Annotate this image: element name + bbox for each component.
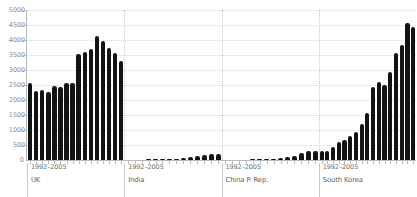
bar-slot — [180, 10, 187, 160]
bar — [371, 87, 375, 160]
y-tick-mark — [23, 55, 26, 56]
strip-panel-name: South Korea — [323, 176, 416, 185]
bar — [394, 53, 398, 160]
bar-slot — [222, 10, 229, 160]
bar-slot — [138, 10, 145, 160]
bar — [382, 85, 386, 160]
y-tick-mark — [23, 70, 26, 71]
bar — [320, 151, 324, 160]
bar — [34, 91, 38, 160]
bar — [89, 49, 93, 160]
bar — [119, 61, 123, 160]
panel-india — [124, 10, 221, 160]
bar-slot — [235, 10, 242, 160]
bar-slot — [173, 10, 180, 160]
bar — [342, 140, 346, 160]
strip-x-range-label: 1992–2005 — [128, 163, 221, 172]
bar — [400, 45, 404, 160]
bar — [313, 151, 318, 160]
bar — [405, 23, 409, 160]
bar — [299, 153, 304, 160]
strip-x-range-label: 1992–2005 — [226, 163, 319, 172]
bar — [107, 48, 111, 160]
bar-slot — [159, 10, 166, 160]
bar — [52, 86, 56, 160]
y-tick-mark — [23, 10, 26, 11]
y-tick-mark — [23, 100, 26, 101]
bar — [40, 90, 44, 160]
bar-slot — [305, 10, 312, 160]
bar — [411, 27, 415, 160]
y-tick-mark — [23, 145, 26, 146]
bar-slot — [249, 10, 256, 160]
panel-separator — [124, 10, 125, 160]
bar-slot — [145, 10, 152, 160]
panel-separator — [222, 10, 223, 160]
bar-slot — [242, 10, 249, 160]
bar — [377, 82, 381, 160]
y-tick-mark — [23, 85, 26, 86]
bar-slot — [201, 10, 208, 160]
bar — [325, 151, 329, 160]
strip-x-range-label: 1992–2005 — [323, 163, 416, 172]
y-tick-mark — [23, 40, 26, 41]
bar-slot — [263, 10, 270, 160]
y-tick-label-zero: 0 — [0, 156, 24, 164]
y-tick-mark — [23, 25, 26, 26]
bar-slot — [131, 10, 138, 160]
y-tick-mark — [23, 130, 26, 131]
bar-slot — [228, 10, 235, 160]
bar — [337, 142, 341, 160]
bar — [28, 83, 32, 160]
strip-label-block: 1992–2005China P. Rep. — [222, 163, 319, 197]
panel-south-korea — [319, 10, 416, 160]
strip-panel-name: China P. Rep. — [226, 176, 319, 185]
bar — [64, 83, 68, 160]
strip-label-block: 1992–2005India — [124, 163, 221, 197]
y-tick-mark — [23, 115, 26, 116]
bar-slot — [124, 10, 131, 160]
bar — [70, 83, 74, 160]
bar — [354, 132, 358, 161]
y-axis: 500100015002000250030003500400045005000 — [0, 0, 27, 160]
bar — [76, 54, 80, 160]
strip-panel-name: India — [128, 176, 221, 185]
bar — [388, 72, 392, 161]
bar-slot — [208, 10, 215, 160]
panel-china-p-rep — [222, 10, 319, 160]
bar-slot — [298, 10, 305, 160]
bar — [113, 53, 117, 160]
panel-uk — [27, 10, 124, 160]
bar-slot — [166, 10, 173, 160]
bar-slot — [410, 10, 416, 160]
bar — [95, 36, 99, 160]
bar — [306, 151, 311, 160]
panel-separator — [319, 10, 320, 160]
bar — [348, 136, 352, 160]
bar-slot — [291, 10, 298, 160]
strip-label-block: 1992–2005South Korea — [319, 163, 416, 197]
plot-area — [27, 10, 416, 160]
bar — [360, 124, 364, 160]
bar-slot — [152, 10, 159, 160]
strip-panel-name: UK — [31, 176, 124, 185]
bar-slot — [284, 10, 291, 160]
bar — [101, 41, 105, 160]
bar — [365, 113, 369, 160]
strip-label-block: 1992–2005UK — [27, 163, 124, 197]
bar-slot — [194, 10, 201, 160]
bar — [331, 147, 335, 160]
bar-slot — [270, 10, 277, 160]
small-multiples-bar-chart: 500100015002000250030003500400045005000 … — [0, 0, 417, 197]
bar — [46, 92, 50, 160]
strip-x-range-label: 1992–2005 — [31, 163, 124, 172]
bar-slot — [256, 10, 263, 160]
bar — [58, 87, 62, 161]
bar-slot — [277, 10, 284, 160]
bar — [83, 52, 87, 160]
bar-slot — [187, 10, 194, 160]
